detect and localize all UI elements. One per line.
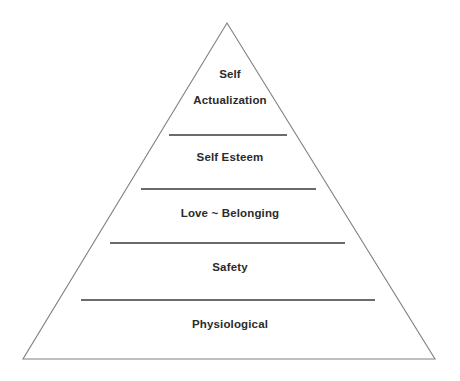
tier-label-self-esteem: Self Esteem (0, 152, 460, 164)
tier-label-line-self: Self (0, 61, 460, 87)
tier-label-line-actualization: Actualization (0, 87, 460, 113)
tier-label-physiological: Physiological (0, 319, 460, 331)
tier-label-self-actualization: Self Actualization (0, 61, 460, 113)
tier-label-safety: Safety (0, 262, 460, 274)
maslow-pyramid-diagram: Self Actualization Self Esteem Love ~ Be… (0, 0, 460, 381)
tier-label-love-belonging: Love ~ Belonging (0, 208, 460, 220)
